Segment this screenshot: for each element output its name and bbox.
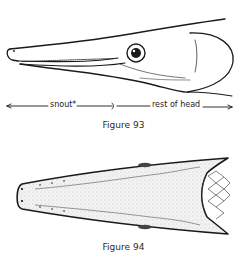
figure-94: Figure 94: [0, 131, 247, 262]
snout-label: snout*: [50, 100, 76, 109]
rest-of-head-label: rest of head: [152, 100, 200, 109]
figure-93-caption: Figure 93: [0, 120, 247, 130]
figure-94-caption: Figure 94: [0, 242, 247, 252]
figure-93: snout* rest of head Figure 93: [0, 0, 247, 130]
gar-head-lateral-illustration: [0, 0, 247, 130]
